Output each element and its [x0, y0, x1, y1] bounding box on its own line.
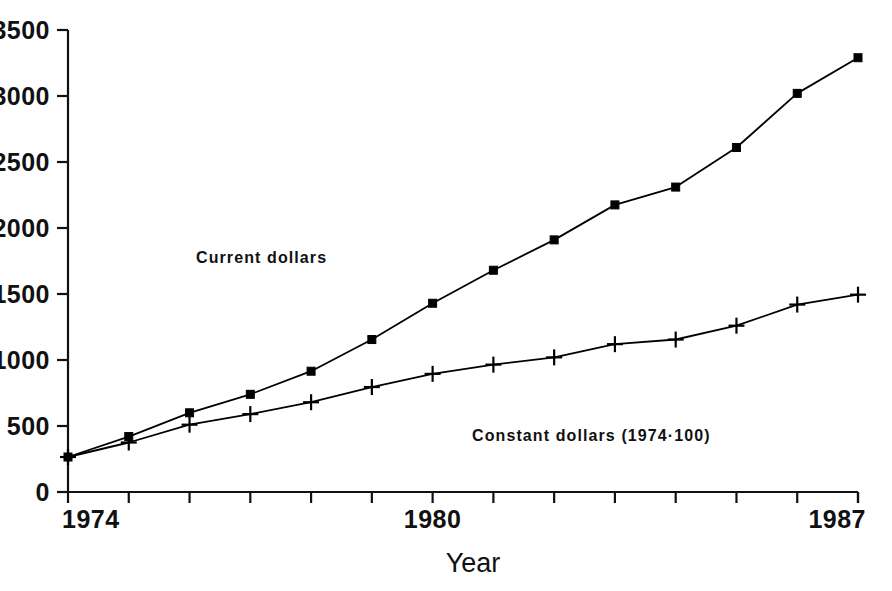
y-axis-tick-label: 3500	[0, 16, 50, 44]
series-label-constant-dollars: Constant dollars (1974·100)	[472, 427, 711, 444]
y-axis-tick-label: 1000	[0, 346, 50, 374]
data-point-marker-square	[429, 299, 437, 307]
data-point-marker-square	[732, 143, 740, 151]
data-point-marker-square	[793, 89, 801, 97]
y-axis-tick-label: 2000	[0, 214, 50, 242]
data-point-marker-square	[307, 367, 315, 375]
y-axis-tick-label: 1500	[0, 280, 50, 308]
data-point-marker-square	[611, 201, 619, 209]
y-axis-tick-label: 500	[7, 412, 50, 440]
x-axis-tick-label: 1974	[62, 505, 120, 533]
data-point-marker-square	[672, 183, 680, 191]
y-axis-tick-label: 2500	[0, 148, 50, 176]
line-chart: 0500100015002000250030003500197419801987…	[0, 0, 892, 591]
data-point-marker-square	[489, 266, 497, 274]
data-point-marker-square	[854, 54, 862, 62]
series-label-current-dollars: Current dollars	[196, 249, 327, 266]
series-line-2	[68, 295, 858, 457]
data-point-marker-square	[550, 236, 558, 244]
data-point-marker-square	[186, 409, 194, 417]
x-axis-title: Year	[446, 548, 501, 578]
series-line-1	[68, 58, 858, 457]
y-axis-tick-label: 3000	[0, 82, 50, 110]
data-point-marker-square	[246, 390, 254, 398]
y-axis-tick-label: 0	[36, 478, 50, 506]
x-axis-tick-label: 1980	[404, 505, 462, 533]
data-point-marker-square	[368, 336, 376, 344]
figure-container: 0500100015002000250030003500197419801987…	[0, 0, 892, 591]
x-axis-tick-label: 1987	[808, 505, 866, 533]
